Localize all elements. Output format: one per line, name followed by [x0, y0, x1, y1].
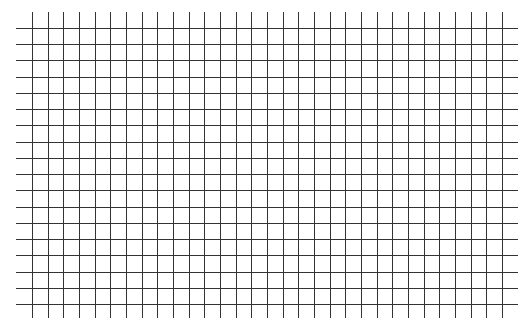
horizontal-grid-line — [16, 207, 518, 208]
horizontal-grid-line — [16, 109, 518, 110]
horizontal-grid-line — [16, 288, 518, 289]
horizontal-grid-line — [16, 93, 518, 94]
horizontal-grid-line — [16, 223, 518, 224]
horizontal-grid-line — [16, 142, 518, 143]
horizontal-grid-line — [16, 77, 518, 78]
horizontal-grid-line — [16, 60, 518, 61]
horizontal-grid-line — [16, 44, 518, 45]
horizontal-grid-line — [16, 190, 518, 191]
horizontal-grid-line — [16, 125, 518, 126]
horizontal-grid-line — [16, 28, 518, 29]
horizontal-grid-line — [16, 272, 518, 273]
horizontal-grid-line — [16, 239, 518, 240]
horizontal-grid-line — [16, 158, 518, 159]
line-grid — [0, 0, 532, 332]
horizontal-grid-line — [16, 174, 518, 175]
horizontal-grid-line — [16, 255, 518, 256]
horizontal-grid-line — [16, 304, 518, 305]
